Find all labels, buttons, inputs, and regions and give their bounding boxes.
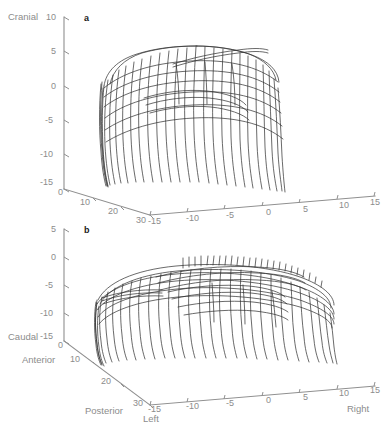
panel-a-ytick-1: 5 — [51, 47, 56, 56]
panel-b-xtick-6: 15 — [370, 386, 380, 395]
panel-a-xtick-4: 5 — [303, 205, 308, 214]
panel-b-left-axis-label: Left — [143, 414, 159, 424]
panel-b-ytick-2: -5 — [45, 281, 53, 290]
panel-b-caudal-axis-label: Caudal — [8, 332, 38, 342]
panel-b-ztick-0: 0 — [58, 341, 63, 350]
panel-b-xtick-4: 5 — [303, 393, 308, 402]
panel-b-letter: b — [84, 226, 90, 235]
panel-b-ztick-3: 30 — [133, 399, 143, 408]
panel-a-ztick-2: 20 — [108, 207, 118, 216]
panel-b-ztick-2: 20 — [101, 377, 111, 386]
panel-a-ytick-5: -15 — [40, 178, 53, 187]
panel-a-ztick-1: 10 — [80, 198, 90, 207]
panel-a-xtick-5: 10 — [339, 201, 349, 210]
panel-a-xtick-2: -5 — [226, 211, 234, 220]
panel-b-ytick-4: -15 — [40, 332, 53, 341]
panel-b-ytick-1: 0 — [51, 253, 56, 262]
panel-b-mesh — [95, 256, 338, 366]
panel-a-xtick-3: 0 — [266, 208, 271, 217]
panel-a-ytick-0: 10 — [46, 13, 56, 22]
panel-a-axes — [64, 17, 375, 215]
panel-a-ytick-2: 0 — [51, 82, 56, 91]
panel-a-mesh — [100, 46, 286, 192]
panel-b-ztick-1: 10 — [70, 355, 80, 364]
panel-b-xtick-2: -5 — [226, 399, 234, 408]
panel-b-xtick-1: -10 — [186, 402, 199, 411]
panel-a-cranial-axis-label: Cranial — [8, 12, 38, 22]
panel-b-ytick-0: 5 — [51, 225, 56, 234]
panel-b-xtick-3: 0 — [266, 396, 271, 405]
panel-a-ztick-0: 0 — [58, 188, 63, 197]
panel-a-letter: a — [84, 14, 89, 23]
panel-a-ztick-3: 30 — [136, 216, 146, 225]
panel-b-xtick-5: 10 — [339, 389, 349, 398]
panel-a-ytick-3: -5 — [45, 116, 53, 125]
panel-b-right-axis-label: Right — [347, 404, 369, 414]
panel-a-xtick-0: -15 — [148, 217, 161, 226]
panel-a-ytick-4: -10 — [40, 150, 53, 159]
figure-canvas: Cranial a 10 5 0 -5 -10 -15 0 10 20 30 -… — [0, 0, 382, 430]
panel-a-xtick-1: -10 — [186, 214, 199, 223]
panel-a-xtick-6: 15 — [370, 198, 380, 207]
panel-b-posterior-axis-label: Posterior — [85, 406, 123, 416]
panel-b-anterior-axis-label: Anterior — [22, 355, 55, 365]
panel-b-xtick-0: -15 — [148, 405, 161, 414]
panel-b-ytick-3: -10 — [40, 309, 53, 318]
